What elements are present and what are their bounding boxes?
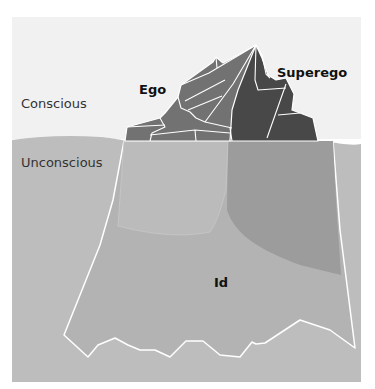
conscious-label: Conscious [21,96,87,111]
id-label: Id [214,275,228,290]
iceberg-diagram [0,0,375,389]
ego-label: Ego [139,82,166,97]
superego-label: Superego [277,65,347,80]
unconscious-label: Unconscious [21,155,103,170]
ego-underwater-mass [118,141,228,235]
